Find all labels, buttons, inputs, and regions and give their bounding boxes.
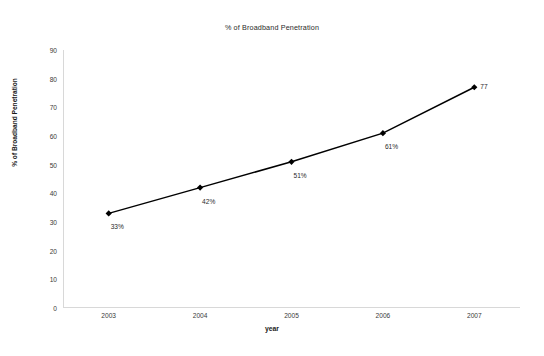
y-tick-label: 70 [50,104,57,111]
data-point-marker [471,84,477,90]
x-tick-label: 2007 [467,312,482,319]
series-line [109,87,475,213]
y-tick-label: 50 [50,161,57,168]
chart-container: % of Broadband Penetration 0102030405060… [0,0,544,356]
data-point-label: 33% [111,223,124,230]
y-tick-label: 60 [50,133,57,140]
data-point-label: 42% [202,198,215,205]
data-point-marker [106,210,112,216]
y-tick-label: 0 [53,305,57,312]
y-tick-label: 90 [50,47,57,54]
x-axis-line [63,307,520,308]
y-axis-tick-labels: 0102030405060708090 [33,50,57,308]
y-tick-label: 20 [50,247,57,254]
data-point-label: 61% [385,143,398,150]
x-tick-label: 2003 [101,312,116,319]
x-tick-label: 2004 [193,312,208,319]
y-tick-label: 30 [50,219,57,226]
y-tick-label: 40 [50,190,57,197]
line-series-svg [0,0,544,356]
chart-title: % of Broadband Penetration [0,23,544,32]
y-tick-label: 10 [50,276,57,283]
data-point-marker [197,185,203,191]
y-tick-label: 80 [50,75,57,82]
data-point-label: 77 [480,83,487,90]
y-axis-line [63,50,64,308]
y-axis-title: % of Broadband Penetration [11,53,18,193]
x-tick-label: 2005 [284,312,299,319]
data-point-label: 51% [294,172,307,179]
x-axis-tick-labels: 20032004200520062007 [63,312,520,326]
data-point-marker [288,159,294,165]
x-tick-label: 2006 [376,312,391,319]
data-point-marker [380,130,386,136]
x-axis-title: year [0,325,544,332]
